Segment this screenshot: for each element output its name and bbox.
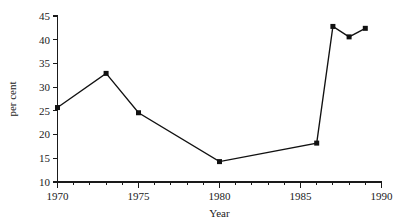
x-axis-tick-label: 1985 xyxy=(290,190,313,202)
x-axis-title: Year xyxy=(209,207,230,219)
y-axis-title: per cent xyxy=(6,81,18,116)
x-axis-tick-label: 1980 xyxy=(209,190,232,202)
data-point-marker xyxy=(330,24,335,29)
y-axis-tick-label: 25 xyxy=(39,105,51,117)
data-point-marker xyxy=(363,26,368,31)
y-axis-tick-label: 30 xyxy=(39,81,51,93)
chart-figure: 1015202530354045 19701975198019851990 pe… xyxy=(0,0,406,223)
x-axis-tick-label: 1970 xyxy=(47,190,70,202)
x-axis-tick-label: 1975 xyxy=(128,190,151,202)
data-point-marker xyxy=(136,110,141,115)
y-axis-tick-label: 10 xyxy=(39,176,51,188)
y-axis-tick-label: 20 xyxy=(39,128,51,140)
x-axis-tick-label: 1990 xyxy=(371,190,394,202)
data-point-marker xyxy=(314,141,319,146)
line-chart-canvas: 1015202530354045 19701975198019851990 pe… xyxy=(0,0,406,223)
data-point-marker xyxy=(104,71,109,76)
data-point-marker xyxy=(55,105,60,110)
y-axis-tick-label: 35 xyxy=(39,57,51,69)
data-point-marker xyxy=(217,159,222,164)
y-axis-tick-label: 40 xyxy=(39,34,51,46)
y-axis-tick-label: 15 xyxy=(39,152,51,164)
data-point-marker xyxy=(347,34,352,39)
y-axis-tick-label: 45 xyxy=(39,10,51,22)
